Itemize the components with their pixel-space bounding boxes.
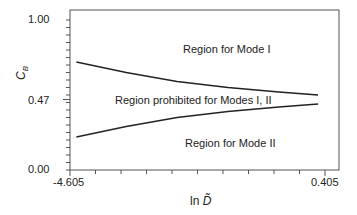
y-axis-label-sub: B	[21, 66, 30, 71]
x-axis-ticks	[70, 170, 325, 176]
lower-boundary-curve	[76, 104, 318, 137]
y-tick-label-1: 1.00	[28, 13, 49, 25]
y-tick-label-047: 0.47	[28, 94, 49, 106]
region-mode2-label: Region for Mode II	[185, 137, 276, 149]
x-tick-label-min: -4.605	[53, 176, 84, 188]
x-tick-label-max: 0.405	[311, 176, 339, 188]
x-axis-label: ln D̃	[190, 194, 211, 208]
y-axis-label: CB	[14, 66, 30, 80]
x-axis-label-prefix: ln	[190, 194, 203, 208]
y-tick-label-0: 0.00	[28, 163, 49, 175]
region-mode1-label: Region for Mode I	[183, 43, 270, 55]
region-prohibited-label: Region prohibited for Modes I, II	[115, 94, 272, 106]
upper-boundary-curve	[76, 62, 318, 95]
y-axis-ticks	[63, 20, 70, 170]
y-axis-label-main: C	[14, 71, 28, 80]
x-axis-label-var: D̃	[203, 194, 212, 208]
